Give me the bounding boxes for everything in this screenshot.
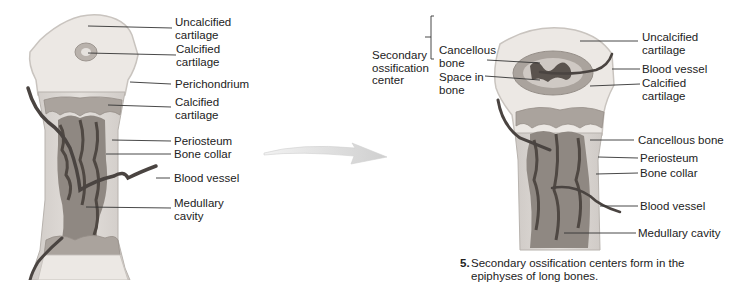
label-bone-collar: Bone collar xyxy=(174,148,232,161)
label-cancellous-bone-group: Cancellous bone xyxy=(439,44,496,69)
label-calcified-cartilage-right: Calcified cartilage xyxy=(642,77,686,102)
label-uncalcified-cartilage-right: Uncalcified cartilage xyxy=(642,31,698,56)
step-number: 5. xyxy=(460,257,470,270)
transition-arrow xyxy=(264,143,387,164)
label-periosteum-right: Periosteum xyxy=(640,152,698,165)
label-blood-vessel-top: Blood vessel xyxy=(642,63,707,76)
label-bone-collar-right: Bone collar xyxy=(640,167,698,180)
step-text: Secondary ossification centers form in t… xyxy=(471,257,685,282)
label-space-in-bone: Space in bone xyxy=(439,71,484,96)
label-secondary-ossification-center: Secondary ossification center xyxy=(372,49,429,87)
label-blood-vessel-bottom: Blood vessel xyxy=(640,200,705,213)
label-blood-vessel: Blood vessel xyxy=(174,172,239,185)
label-medullary-cavity: Medullary cavity xyxy=(174,197,224,222)
label-calcified-cartilage: Calcified cartilage xyxy=(175,96,219,121)
label-medullary-cavity-right: Medullary cavity xyxy=(638,227,720,240)
step-caption: 5. Secondary ossification centers form i… xyxy=(471,257,731,282)
label-uncalcified-cartilage: Uncalcified cartilage xyxy=(175,16,231,41)
label-cancellous-bone: Cancellous bone xyxy=(638,134,724,147)
label-periosteum: Periosteum xyxy=(174,135,232,148)
label-perichondrium: Perichondrium xyxy=(175,78,249,91)
label-calcified-cartilage-center: Calcified cartilage xyxy=(176,43,220,68)
